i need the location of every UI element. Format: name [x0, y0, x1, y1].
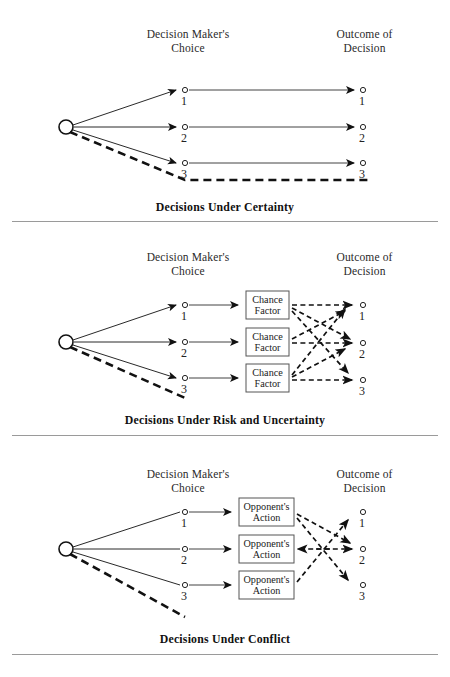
edge-box-1-to-outcome-3 [292, 311, 348, 373]
outcome-node-2-label: 2 [359, 131, 365, 145]
opponent-action-box-2-line1: Opponent's [244, 538, 290, 549]
outcome-node-1 [360, 509, 365, 514]
opponent-action-box-1-line1: Opponent's [244, 501, 290, 512]
choice-node-3-label: 3 [181, 382, 187, 396]
outcome-node-3 [360, 160, 365, 165]
choice-node-2 [182, 339, 187, 344]
chance-factor-box-3-line2: Factor [254, 378, 281, 389]
panel-caption-risk-uncertainty: Decisions Under Risk and Uncertainty [0, 413, 450, 428]
choice-node-1 [182, 87, 187, 92]
panel-caption-certainty: Decisions Under Certainty [0, 200, 450, 215]
edge-box-3-to-outcome-1 [297, 520, 348, 582]
outcome-node-3-label: 3 [359, 167, 365, 181]
outcome-node-3 [360, 377, 365, 382]
envelope-dashed-boundary [70, 132, 372, 180]
chance-factor-box-3-line1: Chance [252, 367, 283, 378]
outcome-node-1 [360, 87, 365, 92]
opponent-action-box-1-line2: Action [253, 512, 281, 523]
envelope-dashed-boundary [70, 347, 185, 398]
choice-node-3-label: 3 [181, 167, 187, 181]
edge-root-to-choice-3 [73, 130, 176, 163]
outcome-node-3-label: 3 [359, 384, 365, 398]
choice-node-1 [182, 302, 187, 307]
outcome-node-2 [360, 340, 365, 345]
edge-box-2-to-outcome-1 [292, 311, 345, 339]
choice-node-3 [182, 582, 187, 587]
outcome-node-2 [360, 124, 365, 129]
choice-node-3-label: 3 [181, 589, 187, 603]
panel-caption-conflict: Decisions Under Conflict [0, 632, 450, 647]
chance-factor-box-2-line1: Chance [252, 331, 283, 342]
edge-root-to-choice-1 [73, 90, 176, 125]
conflict-diagram: 1 2 3 Opponent's Action Opponent's Actio… [0, 442, 450, 637]
opponent-action-box-3-line2: Action [253, 585, 281, 596]
opponent-action-box-2-line2: Action [253, 549, 281, 560]
choice-node-1-label: 1 [181, 309, 187, 323]
choice-node-2-label: 2 [181, 553, 187, 567]
choice-node-2 [182, 124, 187, 129]
panel-divider-3 [12, 654, 438, 655]
chance-factor-box-2-line2: Factor [254, 342, 281, 353]
choice-node-3 [182, 160, 187, 165]
choice-node-2-label: 2 [181, 131, 187, 145]
edge-root-to-choice-1 [73, 512, 180, 547]
outcome-node-1-label: 1 [359, 94, 365, 108]
opponent-action-box-3-line1: Opponent's [244, 574, 290, 585]
outcome-node-2 [360, 546, 365, 551]
panel-decisions-under-conflict: Decision Maker's Choice Outcome of Decis… [0, 442, 450, 677]
panel-divider-2 [12, 435, 438, 436]
outcome-node-3-label: 3 [359, 589, 365, 603]
choice-node-1-label: 1 [181, 516, 187, 530]
panel-decisions-under-certainty: Decision Maker's Choice Outcome of Decis… [0, 0, 450, 225]
panel-divider-1 [12, 221, 438, 222]
choice-node-2-label: 2 [181, 346, 187, 360]
decision-structures-figure: Decision Maker's Choice Outcome of Decis… [0, 0, 450, 677]
outcome-node-1 [360, 302, 365, 307]
choice-node-1 [182, 509, 187, 514]
edge-root-to-choice-1 [73, 305, 176, 340]
edge-root-to-choice-3 [73, 345, 176, 378]
choice-node-1-label: 1 [181, 94, 187, 108]
risk-uncertainty-diagram: 1 2 3 Chance Factor Chance Factor Chance… [0, 225, 450, 420]
choice-node-3 [182, 375, 187, 380]
outcome-node-1-label: 1 [359, 516, 365, 530]
outcome-node-3 [360, 582, 365, 587]
choice-node-2 [182, 546, 187, 551]
chance-factor-box-1-line2: Factor [254, 305, 281, 316]
chance-factor-box-1-line1: Chance [252, 294, 283, 305]
certainty-diagram: 1 2 3 1 2 3 [0, 0, 450, 200]
outcome-node-2-label: 2 [359, 553, 365, 567]
outcome-node-2-label: 2 [359, 347, 365, 361]
panel-decisions-under-risk-and-uncertainty: Decision Maker's Choice Outcome of Decis… [0, 225, 450, 442]
outcome-node-1-label: 1 [359, 309, 365, 323]
envelope-dashed-boundary [70, 554, 185, 617]
edge-box-3-to-outcome-2 [292, 349, 345, 377]
edge-root-to-choice-3 [73, 552, 180, 585]
